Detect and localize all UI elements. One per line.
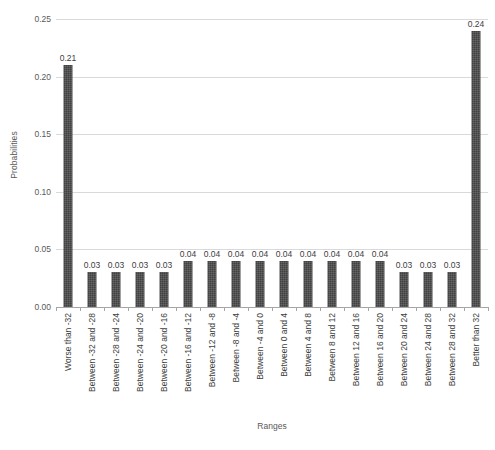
bar[interactable] xyxy=(256,261,265,307)
x-tick-mark xyxy=(272,307,273,311)
plot-area: 0.210.030.030.030.030.040.040.040.040.04… xyxy=(56,19,488,307)
bar[interactable] xyxy=(184,261,193,307)
bar[interactable] xyxy=(280,261,289,307)
bar-slot: 0.04 xyxy=(224,19,248,307)
bar[interactable] xyxy=(88,272,97,307)
bar[interactable] xyxy=(472,31,481,307)
x-tick-mark xyxy=(296,307,297,311)
x-tick-mark xyxy=(224,307,225,311)
bar-slot: 0.04 xyxy=(296,19,320,307)
bar-value-label: 0.03 xyxy=(132,260,149,270)
x-category-label: Between 16 and 20 xyxy=(373,312,387,418)
bar-value-label: 0.03 xyxy=(444,260,461,270)
x-tick-mark xyxy=(344,307,345,311)
bar-value-label: 0.03 xyxy=(396,260,413,270)
bar-value-label: 0.24 xyxy=(468,19,485,29)
x-category-label: Between 4 and 8 xyxy=(301,312,315,418)
y-tick-label: 0.00 xyxy=(12,302,56,312)
x-tick-mark xyxy=(392,307,393,311)
bar[interactable] xyxy=(208,261,217,307)
x-category-label: Between -24 and -20 xyxy=(133,312,147,418)
bar[interactable] xyxy=(352,261,361,307)
x-category-label: Worse than -32 xyxy=(61,312,75,418)
x-category-label: Between -4 and 0 xyxy=(253,312,267,418)
x-tick-mark xyxy=(104,307,105,311)
bar[interactable] xyxy=(136,272,145,307)
bar-value-label: 0.04 xyxy=(276,249,293,259)
x-tick-mark xyxy=(56,307,57,311)
bar[interactable] xyxy=(328,261,337,307)
bar-value-label: 0.21 xyxy=(60,53,77,63)
bar[interactable] xyxy=(304,261,313,307)
x-category-label: Between -32 and -28 xyxy=(85,312,99,418)
bar-slot: 0.04 xyxy=(248,19,272,307)
bar-value-label: 0.04 xyxy=(228,249,245,259)
bar[interactable] xyxy=(424,272,433,307)
bar-slot: 0.04 xyxy=(368,19,392,307)
bar-value-label: 0.03 xyxy=(156,260,173,270)
x-category-label: Between 8 and 12 xyxy=(325,312,339,418)
bar-slot: 0.03 xyxy=(80,19,104,307)
x-tick-mark xyxy=(464,307,465,311)
bar-slot: 0.03 xyxy=(128,19,152,307)
bar-value-label: 0.04 xyxy=(348,249,365,259)
bar-value-label: 0.04 xyxy=(300,249,317,259)
bar-slot: 0.21 xyxy=(56,19,80,307)
bar[interactable] xyxy=(160,272,169,307)
x-category-label: Between -16 and -12 xyxy=(181,312,195,418)
bar-slot: 0.04 xyxy=(200,19,224,307)
y-tick-label: 0.15 xyxy=(12,129,56,139)
x-tick-mark xyxy=(416,307,417,311)
bar-value-label: 0.04 xyxy=(252,249,269,259)
x-category-label: Between 20 and 24 xyxy=(397,312,411,418)
x-tick-mark xyxy=(176,307,177,311)
bar[interactable] xyxy=(448,272,457,307)
y-tick-label: 0.25 xyxy=(12,14,56,24)
bar-slot: 0.04 xyxy=(320,19,344,307)
bar-slot: 0.03 xyxy=(104,19,128,307)
x-category-label: Between -28 and -24 xyxy=(109,312,123,418)
bar[interactable] xyxy=(376,261,385,307)
bar-slot: 0.04 xyxy=(176,19,200,307)
y-tick-label: 0.20 xyxy=(12,72,56,82)
x-category-label: Between -12 and -8 xyxy=(205,312,219,418)
x-category-label: Between 12 and 16 xyxy=(349,312,363,418)
bar[interactable] xyxy=(232,261,241,307)
x-tick-mark xyxy=(440,307,441,311)
bar-value-label: 0.03 xyxy=(108,260,125,270)
y-tick-label: 0.05 xyxy=(12,244,56,254)
bar-value-label: 0.04 xyxy=(180,249,197,259)
bar-slot: 0.03 xyxy=(416,19,440,307)
x-tick-mark xyxy=(152,307,153,311)
bar[interactable] xyxy=(112,272,121,307)
bar-slot: 0.03 xyxy=(392,19,416,307)
bar-value-label: 0.04 xyxy=(372,249,389,259)
x-axis-category-labels: Worse than -32Between -32 and -28Between… xyxy=(56,312,488,418)
x-tick-mark xyxy=(488,307,489,311)
bar-slot: 0.04 xyxy=(344,19,368,307)
bar-value-label: 0.04 xyxy=(204,249,221,259)
x-category-label: Between -20 and -16 xyxy=(157,312,171,418)
bar[interactable] xyxy=(400,272,409,307)
bar-slot: 0.03 xyxy=(152,19,176,307)
x-tick-mark xyxy=(248,307,249,311)
x-tick-mark xyxy=(200,307,201,311)
bar-value-label: 0.03 xyxy=(84,260,101,270)
bar[interactable] xyxy=(64,65,73,307)
bar-chart: Probabilities 0.000.050.100.150.200.25 0… xyxy=(0,0,495,450)
x-category-label: Between 24 and 28 xyxy=(421,312,435,418)
x-tick-mark xyxy=(320,307,321,311)
x-tick-mark xyxy=(128,307,129,311)
x-category-label: Between 0 and 4 xyxy=(277,312,291,418)
y-axis-tick-labels: 0.000.050.100.150.200.25 xyxy=(0,19,56,307)
y-tick-label: 0.10 xyxy=(12,187,56,197)
x-axis-title: Ranges xyxy=(56,421,488,431)
bar-slot: 0.04 xyxy=(272,19,296,307)
x-tick-mark xyxy=(80,307,81,311)
bar-value-label: 0.03 xyxy=(420,260,437,270)
bar-value-label: 0.04 xyxy=(324,249,341,259)
bar-slot: 0.24 xyxy=(464,19,488,307)
x-category-label: Better than 32 xyxy=(469,312,483,418)
x-category-label: Between -8 and -4 xyxy=(229,312,243,418)
x-category-label: Between 28 and 32 xyxy=(445,312,459,418)
